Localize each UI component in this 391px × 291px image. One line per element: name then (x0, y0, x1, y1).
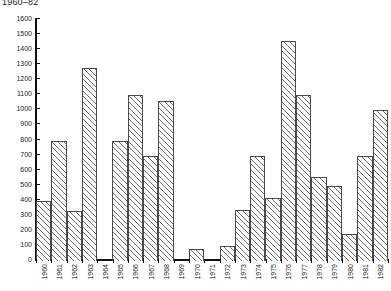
bar-slot (158, 20, 173, 261)
bar (36, 201, 51, 261)
x-tick-label: 1976 (285, 264, 292, 280)
bar (128, 95, 143, 261)
x-label-slot: 1975 (265, 264, 280, 291)
x-tick-label: 1975 (270, 264, 277, 280)
x-tick-label: 1981 (361, 264, 368, 280)
x-tick-mark (357, 259, 358, 263)
bar (311, 177, 326, 261)
bar-slot (82, 20, 97, 261)
bar-slot (220, 20, 235, 261)
x-tick-mark (235, 259, 236, 263)
x-tick-mark (36, 259, 37, 263)
x-label-slot: 1973 (235, 264, 250, 291)
bar-slot (112, 20, 127, 261)
x-tick-label: 1978 (315, 264, 322, 280)
x-tick-mark (158, 259, 159, 263)
bar-slot (204, 20, 219, 261)
bar-slot (189, 20, 204, 261)
x-tick-mark (174, 259, 175, 263)
bar-slot (373, 20, 388, 261)
x-label-slot: 1976 (281, 264, 296, 291)
x-label-slot: 1968 (158, 264, 173, 291)
x-tick-mark (220, 259, 221, 263)
x-tick-label: 1971 (208, 264, 215, 280)
x-label-slot: 1972 (220, 264, 235, 291)
bar-slot (51, 20, 66, 261)
x-label-slot: 1960 (36, 264, 51, 291)
x-tick-label: 1982 (377, 264, 384, 280)
x-label-slot: 1970 (189, 264, 204, 291)
bar-chart: 1960–82 01002003004005006007008009001000… (0, 0, 391, 291)
y-tick-label: 100 (20, 240, 32, 247)
bar-slot (250, 20, 265, 261)
x-tick-label: 1960 (40, 264, 47, 280)
x-label-slot: 1971 (204, 264, 219, 291)
y-tick-label: 500 (20, 180, 32, 187)
x-tick-label: 1968 (163, 264, 170, 280)
y-tick-label: 300 (20, 210, 32, 217)
bar (373, 110, 388, 261)
x-tick-label: 1969 (178, 264, 185, 280)
bar-slot (97, 20, 112, 261)
x-tick-label: 1965 (117, 264, 124, 280)
x-tick-label: 1966 (132, 264, 139, 280)
x-tick-label: 1974 (254, 264, 261, 280)
y-tick-label: 1500 (16, 30, 32, 37)
x-tick-mark (373, 259, 374, 263)
bar (220, 246, 235, 261)
bar-slot (327, 20, 342, 261)
bar-slot (311, 20, 326, 261)
bar (67, 211, 82, 261)
y-tick-label: 800 (20, 135, 32, 142)
x-tick-mark (204, 259, 205, 263)
x-tick-mark (388, 259, 389, 263)
x-label-slot: 1965 (112, 264, 127, 291)
x-axis-labels: 1960196119621963196419651966196719681969… (36, 264, 388, 291)
x-tick-mark (342, 259, 343, 263)
x-tick-mark (82, 259, 83, 263)
x-tick-label: 1973 (239, 264, 246, 280)
x-label-slot: 1982 (373, 264, 388, 291)
x-label-slot: 1974 (250, 264, 265, 291)
y-tick-label: 1400 (16, 45, 32, 52)
y-tick-label: 900 (20, 120, 32, 127)
chart-title: 1960–82 (2, 0, 38, 7)
x-tick-mark (281, 259, 282, 263)
x-label-slot: 1977 (296, 264, 311, 291)
x-tick-label: 1961 (55, 264, 62, 280)
x-tick-mark (113, 259, 114, 263)
x-tick-mark (189, 259, 190, 263)
bar-slot (281, 20, 296, 261)
x-tick-mark (266, 259, 267, 263)
y-tick-label: 1000 (16, 105, 32, 112)
x-tick-mark (128, 259, 129, 263)
bar (281, 41, 296, 261)
x-label-slot: 1966 (128, 264, 143, 291)
y-tick-label: 600 (20, 165, 32, 172)
x-tick-label: 1977 (300, 264, 307, 280)
x-tick-mark (67, 259, 68, 263)
bar (250, 156, 265, 261)
bar (158, 101, 173, 261)
bar (327, 186, 342, 261)
bar-slot (296, 20, 311, 261)
bar (296, 95, 311, 261)
plot-area (36, 18, 388, 261)
bar (51, 141, 66, 262)
y-tick-label: 1200 (16, 75, 32, 82)
bar-slot (357, 20, 372, 261)
bar-slot (36, 20, 51, 261)
y-tick-label: 1100 (17, 90, 32, 97)
x-tick-label: 1964 (101, 264, 108, 280)
x-tick-label: 1979 (331, 264, 338, 280)
x-label-slot: 1963 (82, 264, 97, 291)
bar-series (36, 20, 388, 261)
bar (82, 68, 97, 261)
x-tick-mark (250, 259, 251, 263)
x-tick-label: 1962 (71, 264, 78, 280)
bar-slot (174, 20, 189, 261)
x-tick-label: 1980 (346, 264, 353, 280)
y-tick-label: 200 (20, 225, 32, 232)
x-tick-mark (311, 259, 312, 263)
x-label-slot: 1981 (357, 264, 372, 291)
